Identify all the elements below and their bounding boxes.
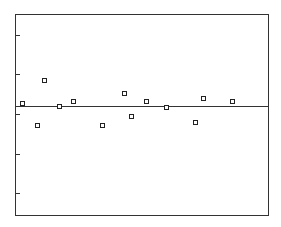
data-point-marker xyxy=(194,121,198,125)
data-point-marker xyxy=(43,79,47,83)
data-point-marker xyxy=(123,92,127,96)
plot-frame xyxy=(16,15,269,216)
data-point-marker xyxy=(202,97,206,101)
data-point-marker xyxy=(72,100,76,104)
data-point-marker xyxy=(130,115,134,119)
data-point-marker xyxy=(36,124,40,128)
scatter-plot xyxy=(0,0,281,227)
data-point-marker xyxy=(21,102,25,106)
data-point-marker xyxy=(231,100,235,104)
data-point-marker xyxy=(165,106,169,110)
data-point-marker xyxy=(58,105,62,109)
data-point-marker xyxy=(101,124,105,128)
data-point-marker xyxy=(145,100,149,104)
data-points xyxy=(21,79,235,128)
